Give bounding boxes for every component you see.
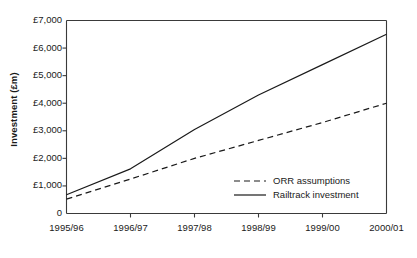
legend-swatch-dashed bbox=[233, 176, 267, 186]
y-axis-ticks bbox=[63, 48, 67, 186]
chart-legend: ORR assumptions Railtrack investment bbox=[233, 174, 359, 202]
legend-swatch-solid bbox=[233, 190, 267, 200]
chart-container: Investment (£m) 0£1,000£2,000£3,000£4,00… bbox=[0, 0, 417, 258]
series-line-railtrack-investment bbox=[67, 34, 387, 194]
legend-item-orr-assumptions: ORR assumptions bbox=[233, 174, 359, 188]
x-axis-ticks bbox=[131, 214, 323, 218]
plot-area bbox=[0, 0, 417, 258]
legend-label-orr-assumptions: ORR assumptions bbox=[273, 174, 350, 188]
legend-item-railtrack-investment: Railtrack investment bbox=[233, 188, 359, 202]
legend-label-railtrack-investment: Railtrack investment bbox=[273, 188, 359, 202]
